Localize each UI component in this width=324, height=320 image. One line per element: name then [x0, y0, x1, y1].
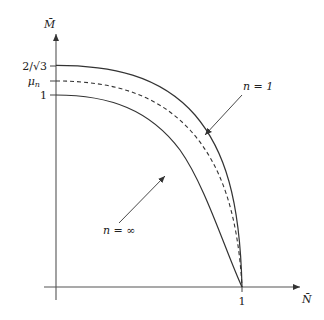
- arrow-n-infinity: [119, 176, 165, 223]
- annotation-n-1: n = 1: [243, 80, 273, 93]
- annotation-n-infinity: n = ∞: [103, 224, 135, 237]
- interaction-diagram: M̄ N̄ 2/√3 μn 1 1 n = 1 n = ∞: [0, 0, 324, 320]
- curve-n-infinity: [56, 95, 242, 287]
- curve-n-1: [56, 65, 242, 287]
- y-axis-label: M̄: [43, 18, 56, 31]
- curve-mu-n-dashed: [56, 81, 242, 287]
- x-axis-label: N̄: [301, 293, 312, 306]
- y-tick-label-2-sqrt3: 2/√3: [22, 60, 47, 73]
- y-tick-label-mu-n: μn: [28, 75, 40, 89]
- y-tick-label-one: 1: [40, 89, 47, 102]
- arrow-n-1: [205, 95, 242, 135]
- x-tick-label-one: 1: [239, 295, 246, 308]
